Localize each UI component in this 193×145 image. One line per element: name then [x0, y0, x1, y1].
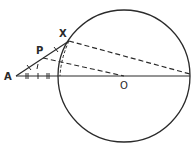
tick-ax-1	[27, 65, 31, 70]
label-a: A	[4, 71, 12, 82]
label-x: X	[59, 28, 67, 39]
dashed-line-x-to-chord	[69, 41, 190, 74]
label-p: P	[36, 45, 43, 56]
dashed-line-p-to-o	[43, 58, 124, 76]
geometry-diagram: A P X O	[0, 0, 193, 145]
tick-angle	[37, 64, 38, 69]
tick-ax-2	[54, 47, 58, 52]
label-o: O	[120, 80, 128, 91]
